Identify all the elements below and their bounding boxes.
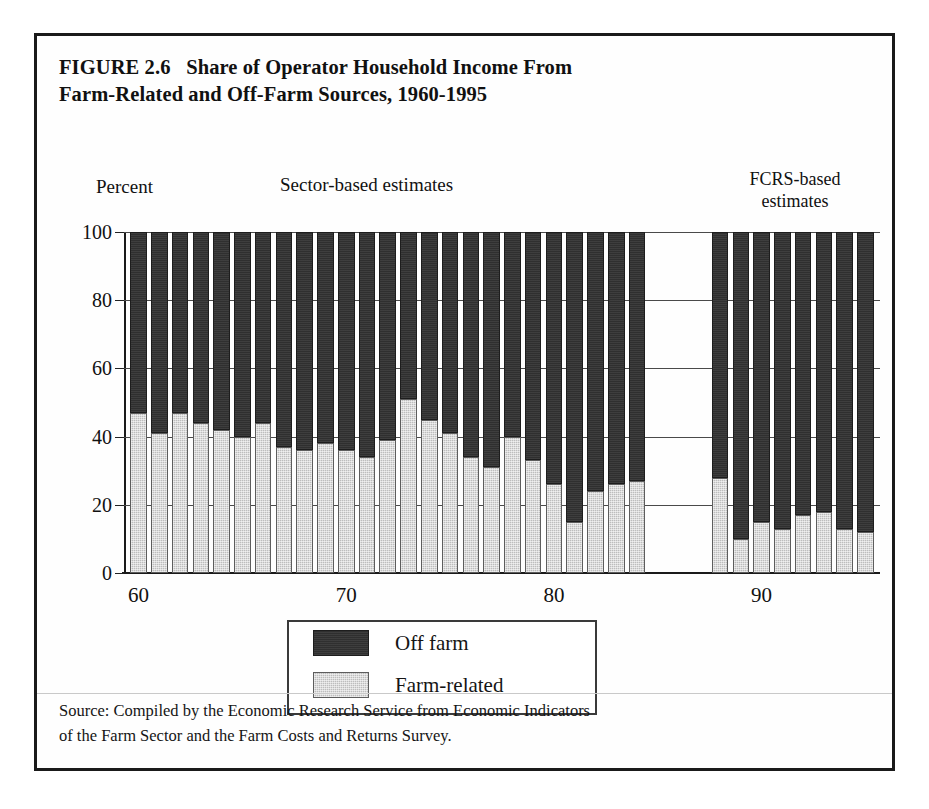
y-tick-label: 0: [102, 562, 112, 585]
bar-segment-off-farm: [629, 232, 646, 481]
bar-segment-farm-related: [816, 512, 833, 573]
bar-segment-farm-related: [359, 457, 376, 573]
bar-segment-off-farm: [857, 232, 874, 532]
chart-bar: [193, 232, 210, 573]
bar-segment-off-farm: [566, 232, 583, 522]
bar-segment-off-farm: [255, 232, 272, 423]
chart-bar: [379, 232, 396, 573]
chart-bar: [733, 232, 750, 573]
y-tick-label: 100: [82, 221, 112, 244]
y-tick-label: 60: [92, 357, 112, 380]
bar-segment-farm-related: [296, 450, 313, 573]
source-note: Source: Compiled by the Economic Researc…: [59, 698, 859, 748]
bar-segment-off-farm: [151, 232, 168, 433]
chart-bar: [566, 232, 583, 573]
bar-segment-farm-related: [504, 437, 521, 573]
x-tick-label: 80: [543, 583, 564, 608]
bar-segment-farm-related: [172, 413, 189, 573]
bar-segment-farm-related: [608, 484, 625, 573]
chart-bar: [400, 232, 417, 573]
bar-segment-farm-related: [338, 450, 355, 573]
y-axis-line: [124, 232, 126, 573]
sector-estimates-caption: Sector-based estimates: [280, 174, 453, 196]
bar-segment-farm-related: [130, 413, 147, 573]
source-divider: [37, 693, 892, 694]
chart-bar: [234, 232, 251, 573]
chart-canvas: 020406080100 60708090: [124, 232, 880, 573]
y-axis-tick: [115, 300, 124, 301]
bar-segment-off-farm: [193, 232, 210, 423]
legend-label-off-farm: Off farm: [395, 631, 469, 656]
bar-segment-off-farm: [421, 232, 438, 420]
y-axis-tick: [115, 232, 124, 233]
bar-segment-off-farm: [504, 232, 521, 437]
fcrs-caption-line-1: FCRS-based: [700, 168, 890, 190]
bar-segment-off-farm: [733, 232, 750, 539]
y-axis-tick: [115, 437, 124, 438]
y-axis-tick: [115, 505, 124, 506]
bar-segment-farm-related: [317, 443, 334, 573]
bar-segment-off-farm: [546, 232, 563, 484]
bar-segment-farm-related: [276, 447, 293, 573]
bar-segment-off-farm: [795, 232, 812, 515]
title-line-1: FIGURE 2.6 Share of Operator Household I…: [59, 54, 819, 81]
chart-bar: [816, 232, 833, 573]
chart-bar: [296, 232, 313, 573]
bar-segment-off-farm: [608, 232, 625, 484]
bar-segment-farm-related: [712, 478, 729, 573]
chart-bar: [338, 232, 355, 573]
bar-segment-farm-related: [546, 484, 563, 573]
bar-segment-farm-related: [774, 529, 791, 573]
y-axis-unit-label: Percent: [96, 176, 153, 198]
bar-segment-farm-related: [795, 515, 812, 573]
chart-bar: [608, 232, 625, 573]
chart-bar: [172, 232, 189, 573]
chart-bar: [421, 232, 438, 573]
bar-segment-farm-related: [255, 423, 272, 573]
bar-segment-farm-related: [442, 433, 459, 573]
bar-segment-off-farm: [442, 232, 459, 433]
chart-bar: [836, 232, 853, 573]
fcrs-estimates-caption: FCRS-based estimates: [700, 168, 890, 212]
bar-segment-farm-related: [587, 491, 604, 573]
chart-bar: [463, 232, 480, 573]
chart-bar: [629, 232, 646, 573]
x-tick-label: 70: [336, 583, 357, 608]
chart-bar: [276, 232, 293, 573]
bar-segment-off-farm: [276, 232, 293, 447]
bar-segment-farm-related: [753, 522, 770, 573]
bar-segment-farm-related: [566, 522, 583, 573]
bar-segment-farm-related: [400, 399, 417, 573]
figure-frame: FIGURE 2.6 Share of Operator Household I…: [34, 33, 895, 771]
bar-segment-off-farm: [172, 232, 189, 413]
y-axis-tick: [115, 368, 124, 369]
bar-segment-off-farm: [712, 232, 729, 478]
bar-segment-off-farm: [463, 232, 480, 457]
bar-segment-off-farm: [400, 232, 417, 399]
chart-bar: [255, 232, 272, 573]
bar-segment-off-farm: [338, 232, 355, 450]
chart-plot-area: Percent Sector-based estimates FCRS-base…: [90, 196, 880, 576]
bar-segment-farm-related: [151, 433, 168, 573]
bar-segment-off-farm: [379, 232, 396, 440]
chart-bar: [317, 232, 334, 573]
bar-segment-off-farm: [296, 232, 313, 450]
chart-bar: [525, 232, 542, 573]
bar-segment-farm-related: [857, 532, 874, 573]
chart-bar: [483, 232, 500, 573]
bar-segment-farm-related: [234, 437, 251, 573]
chart-bar: [442, 232, 459, 573]
figure-title: FIGURE 2.6 Share of Operator Household I…: [59, 54, 819, 108]
bar-segment-farm-related: [193, 423, 210, 573]
bar-segment-off-farm: [774, 232, 791, 529]
source-line-2: of the Farm Sector and the Farm Costs an…: [59, 723, 859, 748]
title-line-2: Farm-Related and Off-Farm Sources, 1960-…: [59, 81, 819, 108]
bar-segment-farm-related: [733, 539, 750, 573]
chart-bar: [213, 232, 230, 573]
chart-bar: [359, 232, 376, 573]
bar-segment-off-farm: [359, 232, 376, 457]
chart-bar: [795, 232, 812, 573]
chart-bar: [857, 232, 874, 573]
y-tick-label: 40: [92, 425, 112, 448]
y-tick-label: 20: [92, 493, 112, 516]
